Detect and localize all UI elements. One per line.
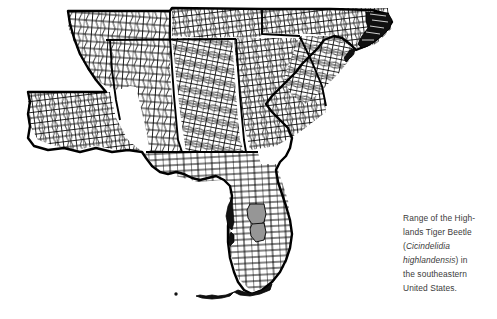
caption-line-6: United States. — [403, 281, 493, 295]
caption-line-3: (Cicindelidia — [403, 239, 493, 253]
range-map — [0, 0, 400, 319]
caption-paren-close: ) in — [456, 255, 468, 265]
caption-line-1: Range of the High- — [403, 211, 493, 225]
figure-container: Range of the High- lands Tiger Beetle (C… — [0, 0, 497, 319]
caption-line-4: highlandensis) in — [403, 253, 493, 267]
map-svg — [0, 0, 400, 319]
caption-line-5: the southeastern — [403, 267, 493, 281]
caption-genus: Cicindelidia — [406, 241, 450, 251]
figure-caption: Range of the High- lands Tiger Beetle (C… — [403, 211, 493, 295]
caption-species: highlandensis — [403, 255, 456, 265]
dry-tortugas-dot — [174, 292, 177, 295]
caption-line-2: lands Tiger Beetle — [403, 225, 493, 239]
